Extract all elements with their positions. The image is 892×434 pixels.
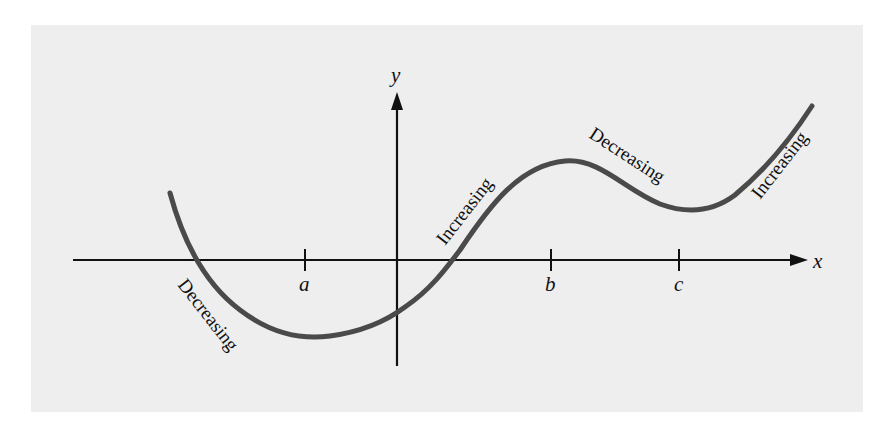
function-graph: x y a b c Decreasing Increasing Decreasi… <box>0 0 892 434</box>
y-axis <box>391 92 403 366</box>
tick-label-c: c <box>674 272 684 296</box>
y-axis-arrow-icon <box>391 92 403 110</box>
x-axis-arrow-icon <box>790 254 808 266</box>
label-decreasing-left: Decreasing <box>174 275 243 356</box>
y-axis-label: y <box>389 63 401 87</box>
x-axis <box>73 254 808 266</box>
label-decreasing-right: Decreasing <box>586 123 670 187</box>
x-axis-label: x <box>812 249 823 273</box>
function-curve <box>170 106 812 337</box>
label-increasing-right: Increasing <box>747 127 813 203</box>
tick-label-a: a <box>299 272 310 296</box>
tick-label-b: b <box>545 272 556 296</box>
